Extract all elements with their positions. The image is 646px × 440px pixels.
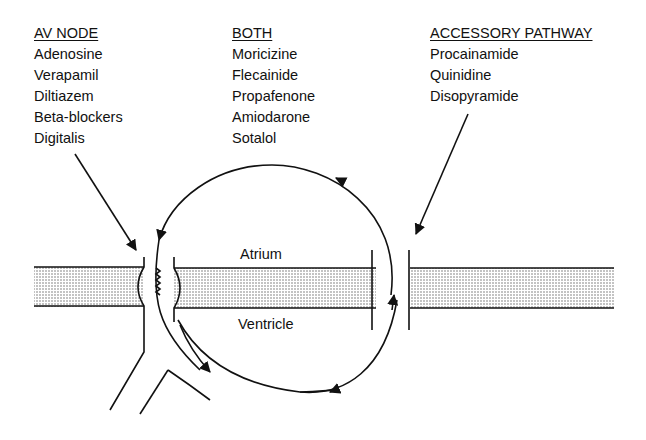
ventricle-label: Ventricle (238, 316, 294, 332)
accessory-pathway-arrow (416, 114, 468, 234)
av-groove-tissue (34, 267, 614, 308)
reentry-circuit-diagram (0, 0, 646, 440)
av-node-arrow (75, 154, 136, 250)
atrium-label: Atrium (240, 246, 282, 262)
